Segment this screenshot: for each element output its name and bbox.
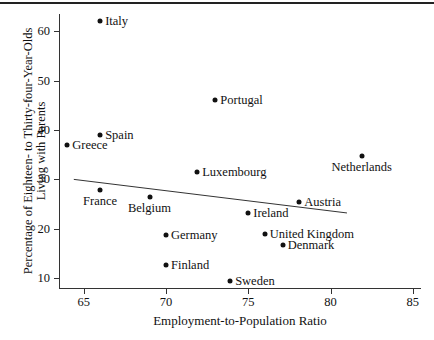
- data-point-marker[interactable]: [98, 188, 103, 193]
- y-axis-title-text: Percentage of Eighteen- to Thirty-four-Y…: [22, 14, 48, 288]
- data-point-marker[interactable]: [98, 18, 103, 23]
- x-tick-label: 75: [242, 296, 255, 309]
- data-point-marker[interactable]: [359, 154, 364, 159]
- data-point-label: Greece: [72, 138, 107, 151]
- x-tick-mark: [331, 288, 332, 294]
- x-tick-mark: [413, 288, 414, 294]
- x-tick-label: 85: [407, 296, 420, 309]
- x-axis-title: Employment-to-Population Ratio: [59, 313, 421, 329]
- data-point-label: Germany: [171, 229, 218, 242]
- y-tick-mark: [54, 130, 60, 131]
- y-axis-title: Percentage of Eighteen- to Thirty-four-Y…: [22, 14, 44, 288]
- data-point-marker[interactable]: [213, 97, 218, 102]
- x-tick-label: 65: [77, 296, 90, 309]
- x-tick-mark: [84, 288, 85, 294]
- y-tick-mark: [54, 278, 60, 279]
- top-rule-divider: [0, 2, 434, 4]
- y-tick-mark: [54, 81, 60, 82]
- data-point-label: Sweden: [235, 274, 275, 287]
- data-point-marker[interactable]: [163, 233, 168, 238]
- x-tick-mark: [166, 288, 167, 294]
- y-tick-mark: [54, 179, 60, 180]
- data-point-label: Finland: [171, 259, 209, 272]
- data-point-marker[interactable]: [195, 170, 200, 175]
- data-point-label: Ireland: [253, 206, 288, 219]
- y-tick-mark: [54, 229, 60, 230]
- data-point-label: Italy: [105, 14, 128, 27]
- data-point-marker[interactable]: [262, 232, 267, 237]
- y-tick-mark: [54, 31, 60, 32]
- x-axis-line: [59, 288, 421, 289]
- y-axis-line: [59, 14, 60, 288]
- data-point-label: Portugal: [220, 93, 262, 106]
- data-point-label: Spain: [105, 128, 133, 141]
- data-point-label: France: [83, 195, 117, 208]
- data-point-marker[interactable]: [163, 263, 168, 268]
- data-point-label: Netherlands: [332, 161, 392, 174]
- data-point-marker[interactable]: [280, 242, 285, 247]
- x-tick-label: 70: [160, 296, 173, 309]
- x-tick-label: 80: [324, 296, 337, 309]
- x-tick-mark: [248, 288, 249, 294]
- data-point-label: Luxembourg: [202, 166, 266, 179]
- data-point-marker[interactable]: [297, 199, 302, 204]
- data-point-label: Austria: [304, 195, 341, 208]
- scatter-chart-figure: 102030405060 6570758085 ItalyPortugalSpa…: [0, 0, 434, 340]
- data-point-label: Denmark: [288, 238, 335, 251]
- data-point-marker[interactable]: [246, 210, 251, 215]
- data-point-marker[interactable]: [228, 278, 233, 283]
- data-point-label: Belgium: [128, 202, 171, 215]
- data-point-marker[interactable]: [65, 142, 70, 147]
- data-point-marker[interactable]: [147, 194, 152, 199]
